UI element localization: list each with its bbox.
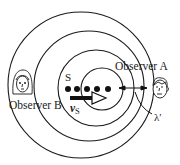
observer-b-label: Observer B	[9, 99, 62, 111]
source-dot	[94, 86, 100, 92]
source-label: S	[65, 71, 71, 83]
wavelength-label: λ′	[154, 111, 162, 123]
velocity-arrow	[70, 92, 106, 104]
wavefront-2	[34, 31, 144, 141]
wavelength-arrow-left-icon	[119, 86, 125, 90]
velocity-subscript: S	[75, 106, 80, 116]
source-dot	[84, 86, 90, 92]
source-dot	[74, 86, 80, 92]
observer-b-face-icon	[13, 70, 32, 94]
source-dot	[105, 86, 111, 92]
source-dot	[65, 86, 71, 92]
wavelength-arrow-right-icon	[141, 86, 147, 90]
velocity-label: vS	[70, 102, 80, 116]
observer-a-face-icon	[153, 78, 169, 98]
velocity-arrow-shaft	[70, 96, 94, 100]
velocity-arrow-head-icon	[92, 92, 106, 104]
source-positions	[65, 86, 111, 92]
doppler-diagram: Observer A Observer B S vS λ′	[0, 0, 180, 165]
wavelength-marker	[119, 86, 152, 114]
observer-a-label: Observer A	[115, 60, 168, 72]
